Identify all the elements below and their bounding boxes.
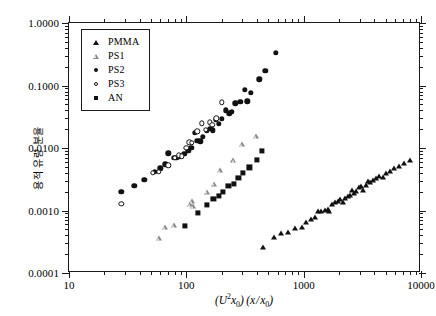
y-axis-tick-minor (419, 110, 423, 111)
data-point-ps2 (242, 87, 247, 92)
y-axis-tickr-major (419, 23, 426, 24)
y-axis-tick-minor (65, 254, 69, 255)
y-axis-tick-minor (65, 162, 69, 163)
data-point-ps2 (273, 50, 278, 55)
data-point-ps3 (209, 122, 214, 127)
x-axis-tick-label: 1000 (293, 280, 315, 291)
y-axis-tick-minor (65, 48, 69, 49)
y-axis-tick-minor (419, 243, 423, 244)
marker-open-triangle-icon (217, 168, 223, 173)
x-axis-tick-minor (410, 271, 411, 275)
data-point-pmma (407, 158, 413, 163)
marker-filled-circle-icon (132, 183, 137, 188)
data-point-pmma (292, 226, 298, 231)
marker-open-triangle-icon (162, 224, 168, 229)
x-axis-tick-minor (257, 271, 258, 275)
marker-filled-triangle-icon (278, 230, 284, 235)
data-point-ps2 (244, 99, 249, 104)
data-point-ps1 (239, 142, 245, 147)
marker-filled-circle-icon (238, 99, 243, 104)
marker-open-circle-icon (203, 127, 208, 132)
data-point-pmma (326, 208, 332, 213)
y-axis-tick-minor (65, 154, 69, 155)
y-axis-tick-minor (65, 110, 69, 111)
marker-filled-circle-icon (200, 134, 205, 139)
y-axis-tick-minor (419, 29, 423, 30)
marker-filled-square-icon (195, 210, 200, 215)
y-axis-tick-minor (65, 37, 69, 38)
marker-filled-square-icon (247, 165, 252, 170)
y-axis-tick-minor (65, 99, 69, 100)
marker-filled-square-icon (211, 196, 216, 201)
y-axis-tickr-major (419, 86, 426, 87)
x-axis-tick-major (69, 271, 70, 278)
y-axis-tick-minor (419, 26, 423, 27)
x-axis-tick-minor (416, 271, 417, 275)
legend-marker-filled-square-icon (89, 96, 103, 100)
y-axis-tick-minor (419, 48, 423, 49)
x-axis-tick-minor (181, 271, 182, 275)
data-point-an (220, 189, 225, 194)
marker-open-triangle-icon (239, 142, 245, 147)
x-axis-tick-minor (410, 19, 411, 23)
marker-filled-square-icon (236, 175, 241, 180)
legend-marker-filled-circle-icon (89, 68, 103, 73)
y-axis-tick-minor (419, 92, 423, 93)
y-axis-tick-label: 0.1000 (28, 80, 59, 91)
x-axis-tick-minor (125, 19, 126, 23)
data-point-pmma (353, 189, 359, 194)
legend-item-ps2: PS2 (89, 63, 139, 77)
y-axis-title: 용적 유량 분율 (30, 126, 45, 190)
marker-filled-square-icon (183, 224, 188, 229)
marker-filled-circle-icon (94, 68, 99, 73)
marker-filled-square-icon (220, 189, 225, 194)
y-axis-tick-minor (65, 26, 69, 27)
y-axis-tickr-major (419, 211, 426, 212)
marker-open-triangle-icon (204, 189, 210, 194)
marker-open-circle-icon (214, 115, 219, 120)
legend-marker-open-triangle-icon (89, 54, 103, 59)
x-axis-tickt-major (186, 16, 187, 23)
y-axis-tick-minor (65, 213, 69, 214)
data-point-an (241, 170, 246, 175)
x-axis-tick-minor (285, 271, 286, 275)
y-axis-tick-minor (65, 29, 69, 30)
data-point-ps3 (184, 145, 189, 150)
x-axis-tick-major (421, 271, 422, 278)
marker-open-circle-icon (94, 82, 99, 87)
marker-filled-triangle-icon (285, 229, 291, 234)
data-point-ps2 (248, 90, 253, 95)
y-axis-tick-major (62, 273, 69, 274)
marker-open-triangle-icon (230, 158, 236, 163)
y-axis-tick-minor (65, 173, 69, 174)
y-axis-tick-minor (65, 129, 69, 130)
marker-filled-triangle-icon (360, 187, 366, 192)
data-point-ps1 (217, 168, 223, 173)
data-point-ps2 (132, 183, 137, 188)
y-axis-tick-minor (65, 42, 69, 43)
marker-open-triangle-icon (211, 181, 217, 186)
y-axis-tick-minor (65, 95, 69, 96)
marker-filled-circle-icon (257, 77, 262, 82)
data-point-ps2 (262, 68, 267, 73)
x-axis-tick-minor (278, 271, 279, 275)
x-axis-tick-minor (386, 271, 387, 275)
x-axis-tick-minor (278, 19, 279, 23)
legend-item-label: PS1 (108, 51, 125, 61)
y-axis-tickr-major (419, 148, 426, 149)
data-point-an (236, 175, 241, 180)
legend-marker-open-circle-icon (89, 82, 103, 87)
x-axis-tick-minor (222, 271, 223, 275)
legend-marker-filled-triangle-icon (89, 40, 103, 45)
marker-open-circle-icon (209, 122, 214, 127)
marker-open-circle-icon (119, 201, 124, 206)
y-axis-tick-major (62, 23, 69, 24)
data-point-ps3 (179, 153, 184, 158)
marker-open-circle-icon (184, 145, 189, 150)
x-axis-tick-minor (175, 19, 176, 23)
data-point-ps2 (229, 109, 234, 114)
x-axis-tick-label: 10 (64, 280, 75, 291)
x-axis-tick-minor (140, 19, 141, 23)
data-point-pmma (278, 230, 284, 235)
y-axis-tick-minor (65, 217, 69, 218)
